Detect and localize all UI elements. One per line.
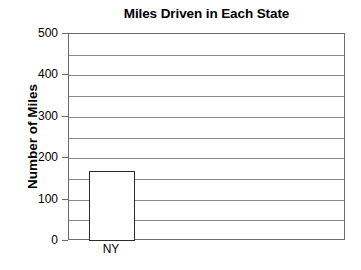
gridline xyxy=(69,55,344,56)
y-axis-tick-label: 500 xyxy=(18,27,58,39)
y-axis-tick-label: 200 xyxy=(18,151,58,163)
gridline xyxy=(69,117,344,118)
chart-title: Miles Driven in Each State xyxy=(68,6,345,21)
bar xyxy=(89,171,135,241)
y-axis-tick xyxy=(62,240,68,241)
gridline xyxy=(69,75,344,76)
y-axis-tick-label: 0 xyxy=(18,234,58,246)
bar-chart: Miles Driven in Each State Number of Mil… xyxy=(0,0,361,270)
y-axis-tick-label: 300 xyxy=(18,110,58,122)
gridline xyxy=(69,138,344,139)
y-axis-tick-labels: 0100200300400500 xyxy=(18,0,58,270)
plot-area xyxy=(68,33,345,240)
x-axis-category-label: NY xyxy=(81,243,141,256)
y-axis-tick-label: 100 xyxy=(18,193,58,205)
y-axis-tick-label: 400 xyxy=(18,68,58,80)
gridline xyxy=(69,96,344,97)
gridline xyxy=(69,158,344,159)
